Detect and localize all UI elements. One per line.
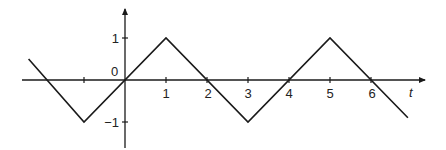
y-tick-label: −1 xyxy=(104,115,119,130)
triangle-wave-chart: 1234561−1 0 t xyxy=(0,0,446,150)
x-tick-label: 3 xyxy=(244,86,251,101)
x-tick-label: 6 xyxy=(368,86,375,101)
y-tick-label: 1 xyxy=(112,31,119,46)
t-axis-label: t xyxy=(409,85,414,100)
x-tick-label: 5 xyxy=(326,86,333,101)
x-tick-label: 1 xyxy=(162,86,169,101)
origin-label: 0 xyxy=(111,64,118,79)
axes xyxy=(22,9,425,148)
x-tick-label: 4 xyxy=(285,86,292,101)
x-tick-label: 2 xyxy=(204,86,211,101)
